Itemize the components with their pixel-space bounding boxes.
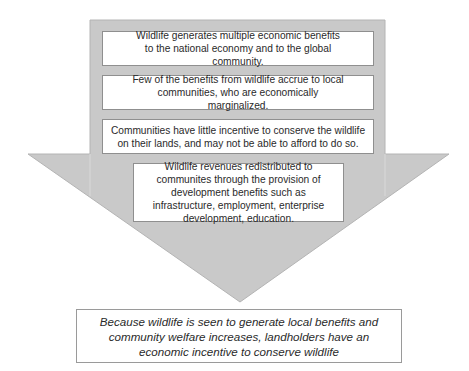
step-box-4: Wildlife revenues redistributed to commu… [133, 163, 344, 222]
step-text-2: Few of the benefits from wildlife accrue… [107, 73, 369, 112]
step-box-1: Wildlife generates multiple economic ben… [102, 31, 374, 66]
step-text-1: Wildlife generates multiple economic ben… [107, 29, 369, 68]
step-box-3: Communities have little incentive to con… [102, 119, 374, 154]
step-text-3: Communities have little incentive to con… [107, 124, 369, 150]
outcome-text: Because wildlife is seen to generate loc… [83, 314, 395, 359]
outcome-box: Because wildlife is seen to generate loc… [76, 309, 402, 363]
step-box-2: Few of the benefits from wildlife accrue… [102, 75, 374, 110]
step-text-4: Wildlife revenues redistributed to commu… [138, 160, 339, 225]
